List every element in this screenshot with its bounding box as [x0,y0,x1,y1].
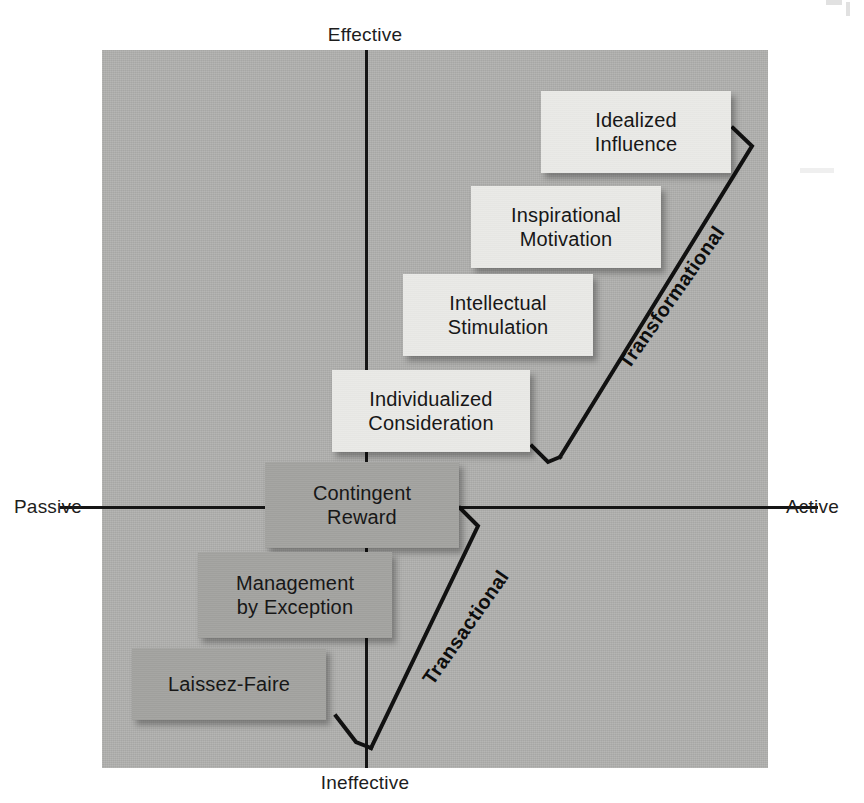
node-label: Laissez-Faire [168,672,290,696]
node-laissez-faire[interactable]: Laissez-Faire [132,648,326,720]
axis-label-passive: Passive [14,496,82,518]
node-label: Managementby Exception [236,571,354,620]
node-label: IdealizedInfluence [595,108,678,157]
node-label-line2: Stimulation [448,315,549,339]
node-label: IndividualizedConsideration [368,387,493,436]
node-intellectual-stimulation[interactable]: IntellectualStimulation [403,274,593,356]
scan-artifact [800,168,834,173]
axis-label-active: Active [786,496,839,518]
node-label-line1: Management [236,571,354,595]
node-label-line2: by Exception [236,595,354,619]
scan-artifact [826,0,842,5]
node-contingent-reward[interactable]: ContingentReward [265,462,459,548]
node-label-line2: Consideration [368,411,493,435]
node-label: InspirationalMotivation [511,203,621,252]
axis-label-ineffective: Ineffective [0,772,730,794]
node-label-line1: Contingent [313,481,411,505]
node-idealized-influence[interactable]: IdealizedInfluence [541,91,731,173]
node-label-line1: Intellectual [448,291,549,315]
node-individualized-consideration[interactable]: IndividualizedConsideration [332,370,530,452]
diagram-canvas: Effective Ineffective Passive Active Tra… [0,0,864,803]
node-label-line2: Influence [595,132,678,156]
node-management-by-exception[interactable]: Managementby Exception [198,552,392,638]
node-label-line1: Idealized [595,108,678,132]
node-label: IntellectualStimulation [448,291,549,340]
node-label-line1: Laissez-Faire [168,672,290,696]
node-label-line2: Reward [313,505,411,529]
node-label-line2: Motivation [511,227,621,251]
node-label-line1: Individualized [368,387,493,411]
node-label-line1: Inspirational [511,203,621,227]
scan-artifact [846,2,850,16]
node-label: ContingentReward [313,481,411,530]
node-inspirational-motivation[interactable]: InspirationalMotivation [471,186,661,268]
axis-label-effective: Effective [0,24,730,46]
